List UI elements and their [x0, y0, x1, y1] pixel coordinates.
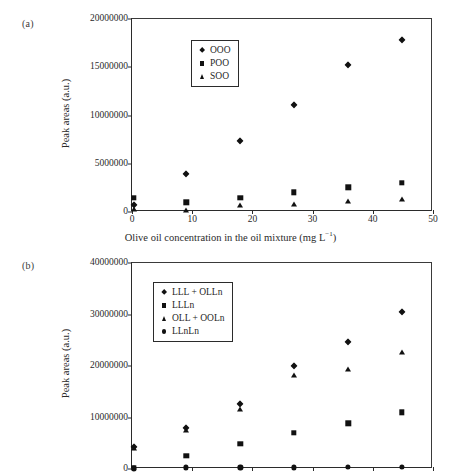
legend-item: POO: [197, 57, 231, 70]
data-point: [184, 465, 189, 470]
data-point: [345, 198, 351, 203]
data-point: [238, 465, 243, 470]
marker-glyph: [200, 74, 204, 79]
panel-a-y-tick-mark: [128, 67, 132, 68]
legend-label: OOO: [210, 46, 231, 56]
data-point: [131, 195, 136, 200]
data-point: [399, 180, 404, 185]
panel-b-x-tick-mark: [373, 467, 374, 471]
panel-a-y-tick-label: 15000000: [90, 63, 128, 73]
panel-a-plot-area: 0500000010000000150000002000000001020304…: [131, 18, 432, 211]
data-point: [345, 185, 350, 190]
panel-a-y-tick-mark: [128, 19, 132, 20]
data-point: [238, 195, 243, 200]
legend-label: POO: [210, 59, 229, 69]
panel-b-y-tick-label: 20000000: [90, 361, 128, 371]
panel-b-x-tick-mark: [313, 467, 314, 471]
panel-a-x-tick-label: 0: [130, 215, 135, 225]
legend-item: LLnLn: [159, 325, 225, 338]
panel-a-y-tick-label: 5000000: [95, 159, 128, 169]
data-point: [183, 200, 188, 205]
data-point: [290, 362, 297, 369]
data-point: [291, 201, 297, 206]
panel-b-y-tick-label: 30000000: [90, 310, 128, 320]
data-point: [399, 464, 404, 469]
data-point: [183, 208, 189, 213]
data-point: [238, 441, 243, 446]
legend-item: OOO: [197, 44, 231, 57]
data-point: [183, 453, 188, 458]
legend-label: LLL + OLLn: [172, 288, 222, 298]
data-point: [344, 339, 351, 346]
chart-panel-a: (a) Peak areas (a.u.) 050000001000000015…: [0, 0, 461, 248]
panel-b-y-tick-label: 10000000: [90, 413, 128, 423]
diamond-marker-icon: [159, 290, 169, 294]
panel-b-x-tick-mark: [433, 467, 434, 471]
panel-a-x-tick-label: 20: [248, 215, 258, 225]
square-marker-icon: [197, 61, 207, 66]
data-point: [237, 203, 243, 208]
legend-label: LLnLn: [172, 327, 199, 337]
data-point: [237, 137, 244, 144]
diamond-marker-icon: [197, 48, 207, 52]
panel-a-label: (a): [22, 18, 34, 29]
panel-b-x-tick-mark: [192, 467, 193, 471]
data-point: [345, 366, 351, 371]
panel-b-y-tick-mark: [128, 417, 132, 418]
legend-label: SOO: [210, 72, 229, 82]
panel-b-x-tick-mark: [252, 467, 253, 471]
panel-a-x-tick-label: 40: [368, 215, 378, 225]
legend-label: LLLn: [172, 301, 194, 311]
marker-glyph: [199, 47, 205, 53]
data-point: [183, 171, 190, 178]
panel-b-y-axis-title: Peak areas (a.u.): [60, 261, 71, 467]
panel-a-y-tick-label: 20000000: [90, 14, 128, 24]
panel-b-x-tick-mark: [132, 467, 133, 471]
x-axis-unit-exponent: −1: [325, 230, 332, 238]
data-point: [291, 430, 296, 435]
panel-a-x-tick-label: 50: [428, 215, 438, 225]
data-point: [291, 372, 297, 377]
data-point: [398, 37, 405, 44]
marker-glyph: [162, 329, 167, 334]
panel-a-x-axis-title: Olive oil concentration in the oil mixtu…: [0, 230, 461, 243]
data-point: [130, 444, 137, 451]
panel-a-y-tick-mark: [128, 163, 132, 164]
panel-b-y-tick-mark: [128, 366, 132, 367]
square-marker-icon: [159, 303, 169, 308]
panel-a-y-tick-label: 10000000: [90, 111, 128, 121]
panel-a-y-tick-mark: [128, 115, 132, 116]
data-point: [399, 350, 405, 355]
panel-b-y-tick-mark: [128, 263, 132, 264]
data-point: [237, 406, 243, 411]
data-point: [291, 190, 296, 195]
data-point: [130, 202, 137, 209]
data-point: [398, 309, 405, 316]
data-point: [291, 465, 296, 470]
panel-a-x-tick-label: 30: [308, 215, 318, 225]
panel-a-y-axis-title: Peak areas (a.u.): [60, 17, 71, 210]
legend-item: OLL + OOLn: [159, 312, 225, 325]
data-point: [183, 428, 189, 433]
panel-b-label: (b): [22, 260, 34, 271]
panel-b-legend: LLL + OLLnLLLnOLL + OOLnLLnLn: [153, 282, 233, 342]
marker-glyph: [162, 303, 167, 308]
marker-glyph: [162, 316, 166, 321]
data-point: [290, 102, 297, 109]
circle-marker-icon: [159, 329, 169, 334]
marker-glyph: [161, 289, 167, 295]
data-point: [345, 420, 350, 425]
triangle-marker-icon: [197, 74, 207, 79]
legend-item: LLLn: [159, 299, 225, 312]
legend-item: LLL + OLLn: [159, 286, 225, 299]
legend-label: OLL + OOLn: [172, 314, 225, 324]
data-point: [237, 400, 244, 407]
triangle-marker-icon: [159, 316, 169, 321]
panel-b-y-tick-label: 40000000: [90, 258, 128, 268]
chart-panel-b: (b) Peak areas (a.u.) 010000000200000003…: [0, 248, 461, 461]
data-point: [183, 425, 190, 432]
panel-b-y-tick-mark: [128, 314, 132, 315]
panel-a-legend: OOOPOOSOO: [191, 40, 239, 87]
marker-glyph: [200, 61, 205, 66]
data-point: [131, 446, 137, 451]
